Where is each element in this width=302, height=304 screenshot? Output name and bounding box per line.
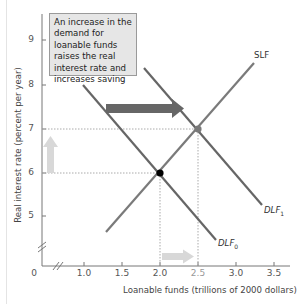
reference-lines — [42, 129, 198, 266]
dlf0-label-main: DLF — [218, 238, 234, 248]
x-axis-title: Loanable funds (trillions of 2000 dollar… — [120, 285, 300, 295]
x-ticks — [84, 262, 274, 266]
y-tick-label: 7 — [20, 123, 34, 133]
x-tick-label: 3.5 — [264, 268, 284, 278]
slf-curve — [106, 63, 254, 232]
annotation-box: An increase in the demand for loanable f… — [49, 13, 137, 76]
dlf0-label-sub: 0 — [234, 243, 238, 250]
chart-canvas — [0, 0, 302, 304]
interest-rate-up-arrow — [43, 136, 58, 173]
dlf1-label-sub: 1 — [280, 210, 284, 217]
y-tick-label: 6 — [20, 167, 34, 177]
y-axis-title: Real interest rate (percent per year) — [13, 65, 23, 225]
x-tick-label: 2.5 — [188, 268, 208, 278]
x-tick-label: 1.0 — [74, 268, 94, 278]
dlf1-label-main: DLF — [264, 205, 280, 215]
x-tick-label: 0 — [24, 268, 44, 278]
initial-equilibrium-point — [156, 169, 163, 176]
dlf1-curve — [144, 68, 262, 205]
y-ticks — [42, 40, 46, 216]
y-tick-label: 9 — [20, 34, 34, 44]
dlf1-label: DLF1 — [264, 205, 284, 217]
quantity-right-arrow — [162, 250, 194, 264]
x-tick-label: 3.0 — [226, 268, 246, 278]
dlf0-label: DLF0 — [218, 238, 238, 250]
x-tick-label: 1.5 — [112, 268, 132, 278]
new-equilibrium-point — [194, 125, 201, 132]
slf-label: SLF — [254, 50, 269, 60]
x-tick-label: 2.0 — [150, 268, 170, 278]
y-tick-label: 8 — [20, 79, 34, 89]
y-tick-label: 5 — [20, 210, 34, 220]
